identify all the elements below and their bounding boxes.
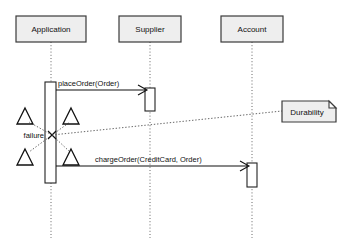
diagram-surface: Application Supplier Account placeOrder(…	[0, 0, 344, 250]
participant-label-supplier: Supplier	[135, 25, 165, 34]
participant-supplier[interactable]: Supplier	[119, 16, 181, 42]
failure-triangle-top-left	[17, 108, 33, 124]
participant-label-application: Application	[31, 25, 70, 34]
lifeline-axes	[51, 42, 252, 238]
failure-label: failure	[24, 131, 44, 140]
note-label-durability: Durability	[290, 108, 323, 117]
message-label-charge-order: chargeOrder(CreditCard, Order)	[95, 155, 202, 164]
sequence-diagram-canvas: Application Supplier Account placeOrder(…	[0, 0, 344, 250]
participant-label-account: Account	[238, 25, 268, 34]
failure-triangle-bottom-left	[17, 149, 33, 165]
failure-triangle-bottom-right	[63, 149, 79, 165]
message-charge-order[interactable]: chargeOrder(CreditCard, Order)	[56, 155, 249, 171]
message-place-order[interactable]: placeOrder(Order)	[56, 79, 147, 95]
participant-account[interactable]: Account	[221, 16, 283, 42]
note-connector-line	[52, 111, 282, 135]
durability-note[interactable]: Durability	[52, 101, 336, 135]
participant-application[interactable]: Application	[16, 16, 86, 42]
activation-bar-supplier[interactable]	[145, 88, 155, 111]
message-label-place-order: placeOrder(Order)	[58, 79, 120, 88]
failure-triangle-top-right	[63, 108, 79, 124]
note-fold-corner-icon	[329, 101, 336, 108]
